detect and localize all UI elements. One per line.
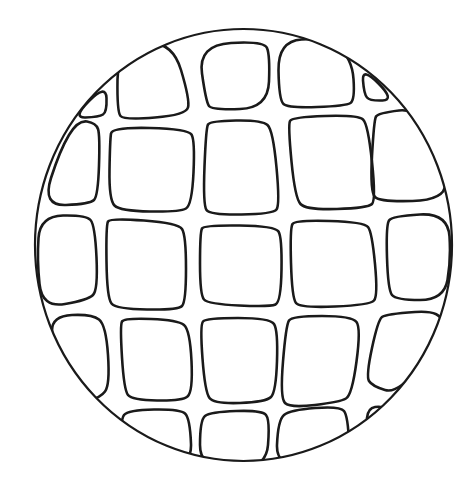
cell-outline [387,214,450,300]
cell-outline [204,120,278,214]
cell-outline [368,312,442,391]
cell-outline [278,39,353,107]
cell-outline [201,318,277,403]
cell-outline [289,116,374,209]
cell-outline [106,219,186,309]
cell-outline [277,407,349,470]
cell-grid-figure [0,0,470,495]
cell-outline [200,225,282,306]
cell-outline [291,221,377,307]
cell-outline [52,315,109,399]
cell-outline [38,215,97,304]
microscope-field-of-view [0,0,470,495]
cell-outline [117,43,188,118]
cell-outline [202,43,270,110]
cell-outline [49,121,100,205]
cell-outline [282,316,359,406]
cell-outline [121,319,192,401]
cell-outline [109,128,193,212]
cell-outline [122,409,191,470]
cells [38,39,450,470]
